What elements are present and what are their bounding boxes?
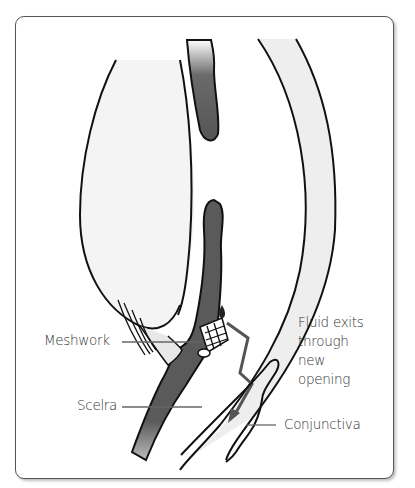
label-fluid-line-3: new: [298, 351, 364, 370]
label-conjunctiva: Conjunctiva: [284, 415, 361, 434]
iris-upper: [187, 40, 218, 140]
label-fluid-line-4: opening: [298, 370, 364, 389]
label-fluid-line-2: through: [298, 332, 364, 351]
label-fluid-exits: Fluid exits through new opening: [298, 313, 364, 389]
ciliary-processes: [140, 326, 182, 365]
label-meshwork: Meshwork: [44, 331, 110, 350]
schlemm-canal: [198, 349, 210, 357]
label-scelra: Scelra: [77, 396, 117, 415]
label-fluid-line-1: Fluid exits: [298, 313, 364, 332]
